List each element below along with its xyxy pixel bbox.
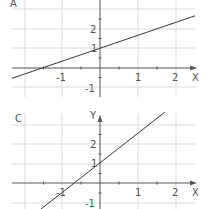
panel-a-y-tick-2: 2 — [90, 24, 96, 35]
panel-c-x-tick-2: 2 — [172, 187, 178, 198]
panel-c-x-tick-1: 1 — [135, 187, 141, 198]
panel-a-x-tick-1: 1 — [135, 72, 141, 83]
chart-canvas: A -1 1 2 X 2 1 -1 — [0, 0, 208, 209]
panel-a-y-tick-1: 1 — [91, 43, 97, 54]
x-axis-arrow-icon — [190, 181, 197, 186]
panel-c-x-tick-neg1: -1 — [56, 187, 66, 198]
panel-c-y-tick-neg1: -1 — [85, 198, 95, 209]
panel-c: C Y -1 1 2 X 2 1 -1 — [12, 110, 199, 209]
panel-c-axes — [12, 115, 197, 209]
panel-a-grid — [12, 0, 195, 97]
panel-a: A -1 1 2 X 2 1 -1 — [10, 0, 199, 97]
panel-c-y-axis-label: Y — [89, 110, 97, 121]
panel-a-x-axis-label: X — [192, 72, 199, 83]
panel-a-plot-line — [12, 16, 195, 79]
y-axis-arrow-icon — [98, 115, 103, 122]
panel-c-y-tick-2: 2 — [90, 139, 96, 150]
panel-a-x-tick-neg1: -1 — [56, 72, 66, 83]
panel-a-label: A — [10, 0, 17, 9]
panel-a-y-tick-neg1: -1 — [85, 83, 95, 94]
panel-a-x-tick-2: 2 — [172, 72, 178, 83]
x-axis-arrow-icon — [190, 66, 197, 71]
panel-c-label: C — [15, 113, 22, 124]
panel-c-grid — [12, 113, 195, 209]
panel-c-x-axis-label: X — [192, 187, 199, 198]
panel-c-y-tick-1: 1 — [91, 158, 97, 169]
